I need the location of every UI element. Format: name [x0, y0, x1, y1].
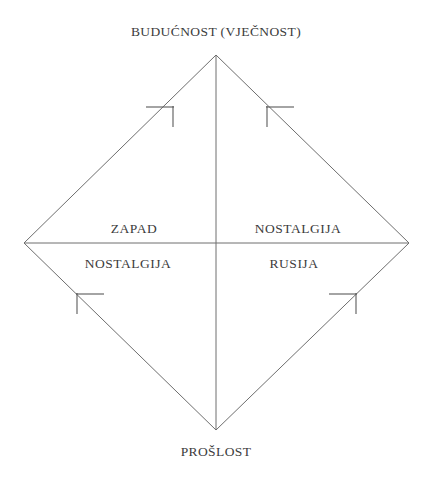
arrow-marker-bottom-left-icon [76, 293, 104, 314]
arrow-marker-bottom-right-icon [329, 293, 357, 314]
axis-label-future: BUDUĆNOST (VJEČNOST) [0, 24, 432, 40]
edge-top-right-line [216, 55, 409, 243]
quadrant-label-bottom-right: RUSIJA [270, 256, 319, 272]
diagram-canvas: BUDUĆNOST (VJEČNOST) PROŠLOST ZAPAD NOST… [0, 0, 432, 481]
diamond-diagram-svg [0, 0, 432, 481]
quadrant-label-bottom-left: NOSTALGIJA [85, 256, 171, 272]
axis-label-past: PROŠLOST [0, 444, 432, 460]
quadrant-label-top-left: ZAPAD [111, 221, 157, 237]
axis-lines [24, 55, 409, 430]
quadrant-label-top-right: NOSTALGIJA [255, 221, 341, 237]
edge-top-left-line [24, 55, 216, 243]
arrow-marker-top-right-icon [266, 106, 294, 127]
